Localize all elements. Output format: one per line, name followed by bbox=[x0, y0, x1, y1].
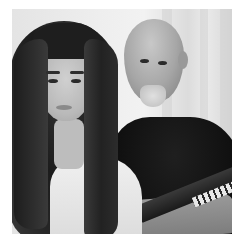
woman-neck bbox=[54, 119, 84, 169]
man-eye bbox=[140, 59, 149, 63]
photograph bbox=[12, 9, 232, 234]
woman-hair-left bbox=[14, 39, 48, 229]
woman-eyebrow bbox=[46, 71, 60, 74]
man-eye bbox=[158, 61, 167, 65]
woman-eyebrow bbox=[70, 71, 84, 74]
man-ear bbox=[178, 51, 188, 69]
man-goatee bbox=[140, 85, 166, 107]
woman-eye bbox=[48, 79, 58, 83]
woman-hair-right bbox=[84, 39, 118, 234]
woman-eye bbox=[71, 79, 81, 83]
woman-lips bbox=[56, 105, 72, 110]
